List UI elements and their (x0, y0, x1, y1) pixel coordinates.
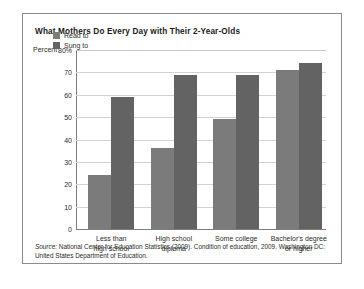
bar-group: High schooldiploma (151, 50, 197, 229)
legend-swatch-icon (53, 32, 60, 39)
y-tick-label: 10 (64, 203, 72, 210)
bar-read-to[interactable] (213, 119, 236, 229)
source-text: National Center for Education Statistics… (35, 243, 325, 259)
legend-swatch-icon (53, 42, 60, 49)
y-tick-label: 60 (64, 91, 72, 98)
legend-label: Read to (64, 32, 89, 39)
bar-sung-to[interactable] (236, 75, 259, 229)
y-tick-label: 40 (64, 136, 72, 143)
bar-read-to[interactable] (151, 148, 174, 229)
y-tick-label: 50 (64, 114, 72, 121)
bar-sung-to[interactable] (111, 97, 134, 229)
bar-group: Less thanhigh school (88, 50, 134, 229)
source-note: Source: National Center for Education St… (35, 242, 329, 260)
bar-group: Bachelor's degreeor higher (276, 50, 322, 229)
bar-read-to[interactable] (276, 70, 299, 229)
bar-sung-to[interactable] (174, 75, 197, 229)
plot-area: 80%706050403020100Less thanhigh schoolHi… (76, 50, 326, 230)
y-tick-label: 20 (64, 181, 72, 188)
figure-container: What Mothers Do Every Day with Their 2-Y… (22, 13, 342, 264)
legend-item-read-to[interactable]: Read to (53, 32, 89, 39)
y-tick-label: 30 (64, 158, 72, 165)
y-tick-label: 0 (68, 226, 72, 233)
source-label: Source: (35, 243, 57, 250)
x-axis-line (76, 229, 326, 230)
legend-label: Sung to (64, 42, 88, 49)
bar-group: Some college (213, 50, 259, 229)
bar-read-to[interactable] (88, 175, 111, 229)
bar-sung-to[interactable] (299, 63, 322, 229)
legend-item-sung-to[interactable]: Sung to (53, 42, 89, 49)
y-tick-label: 70 (64, 69, 72, 76)
chart-legend: Read toSung to (53, 32, 89, 52)
